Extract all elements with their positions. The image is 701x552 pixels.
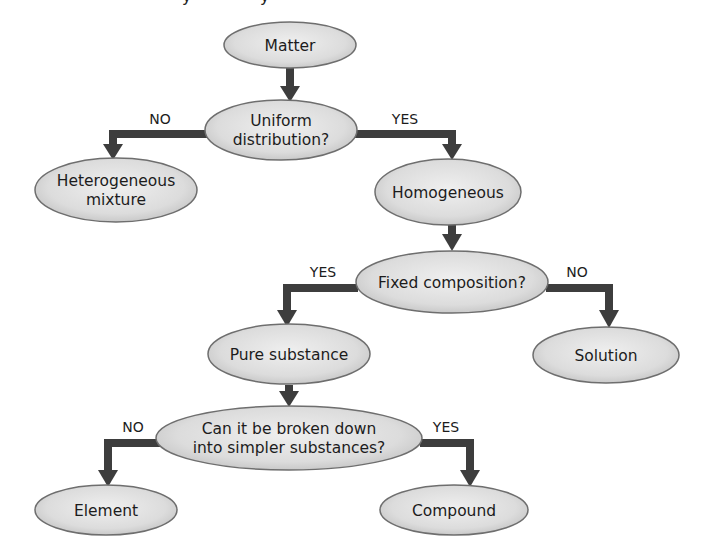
edge-label-broken-yes: YES	[432, 419, 459, 435]
arrowhead-icon	[599, 310, 619, 328]
arrow-broken-yes	[420, 443, 480, 487]
node-label-line-1: Can it be broken down	[202, 420, 377, 438]
node-label-line-1: Uniform	[250, 112, 312, 130]
arrow-homogeneous-to-fixed	[442, 225, 462, 251]
node-label-line-2: into simpler substances?	[193, 439, 386, 457]
edge-label-uniform-no: NO	[149, 111, 171, 127]
node-solution: Solution	[533, 327, 679, 383]
node-fixed-composition: Fixed composition?	[356, 251, 548, 313]
arrow-fixed-yes	[277, 288, 358, 327]
heading-glyph-1: y	[182, 0, 191, 6]
node-can-it-be-broken-down: Can it be broken down into simpler subst…	[156, 406, 422, 470]
cropped-heading: y y	[182, 0, 269, 6]
arrow-fixed-no	[546, 288, 619, 328]
arrowhead-icon	[279, 391, 299, 407]
node-element: Element	[35, 485, 177, 535]
node-compound: Compound	[380, 485, 528, 535]
arrow-broken-no	[98, 443, 160, 487]
node-label: Element	[74, 502, 138, 520]
node-label: Compound	[412, 502, 496, 520]
arrowhead-icon	[442, 144, 462, 160]
edge-label-fixed-yes: YES	[309, 264, 336, 280]
node-label: Matter	[265, 37, 317, 55]
arrow-uniform-yes	[354, 134, 462, 160]
arrow-pure-to-broken	[279, 385, 299, 407]
edge-label-uniform-yes: YES	[391, 111, 418, 127]
node-label-line-1: Heterogeneous	[57, 172, 175, 190]
matter-classification-flowchart: y y NO YES YES NO NO	[0, 0, 701, 552]
heading-glyph-2: y	[260, 0, 269, 6]
node-label: Fixed composition?	[378, 274, 526, 292]
node-label-line-2: distribution?	[233, 131, 330, 149]
arrowhead-icon	[442, 234, 462, 251]
arrow-matter-to-uniform	[280, 68, 300, 102]
node-label: Homogeneous	[392, 184, 504, 202]
node-label: Solution	[574, 347, 637, 365]
arrow-uniform-no	[103, 134, 208, 160]
node-homogeneous: Homogeneous	[375, 159, 521, 225]
node-label-line-2: mixture	[86, 191, 146, 209]
node-pure-substance: Pure substance	[208, 324, 370, 384]
node-uniform-distribution: Uniform distribution?	[205, 100, 357, 160]
node-label: Pure substance	[230, 346, 349, 364]
node-heterogeneous-mixture: Heterogeneous mixture	[35, 158, 197, 222]
edge-label-fixed-no: NO	[566, 264, 588, 280]
edge-label-broken-no: NO	[122, 419, 144, 435]
node-matter: Matter	[224, 22, 356, 68]
